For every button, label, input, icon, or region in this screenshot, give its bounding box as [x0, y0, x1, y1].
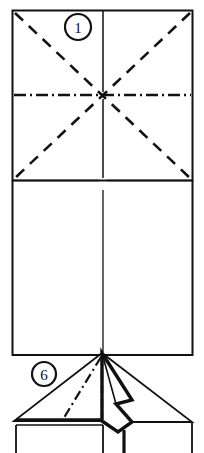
step-1-number: 1 [74, 20, 82, 36]
origami-diagram-sheet: 1 [0, 0, 204, 453]
diagram-canvas: 1 [0, 0, 204, 453]
pyramid-left-face [14, 353, 102, 421]
step-1-figure: 1 [13, 11, 193, 356]
step-6-figure: 6 [13, 353, 192, 453]
step-6-number: 6 [40, 367, 48, 383]
